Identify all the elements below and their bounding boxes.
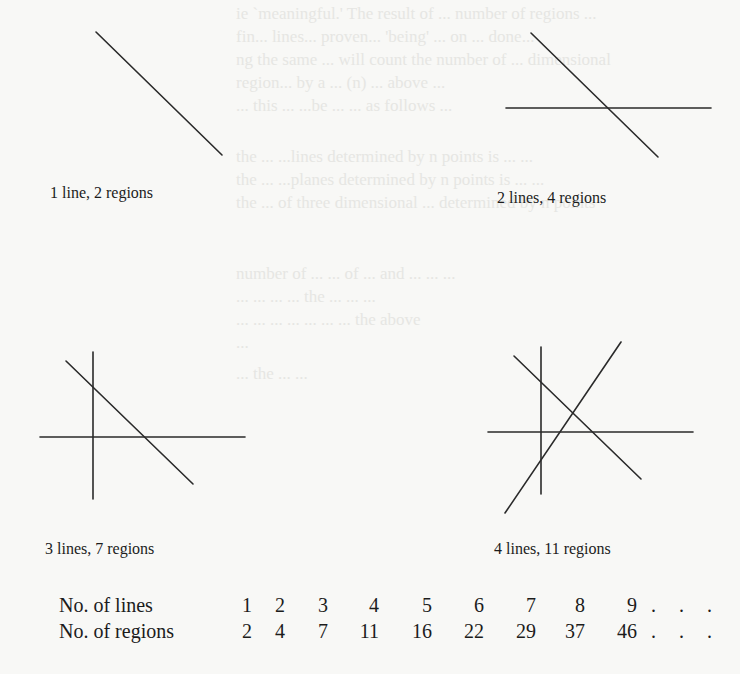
diagram-line xyxy=(505,342,621,513)
diagram-line xyxy=(514,356,641,479)
lines-continuation: . . . xyxy=(651,594,721,617)
figure-2-caption: 2 lines, 4 regions xyxy=(497,189,606,207)
regions-value: 29 xyxy=(486,620,536,643)
lines-value: 6 xyxy=(434,594,484,617)
line-diagrams xyxy=(0,0,740,674)
figure-4-lines xyxy=(488,342,693,513)
regions-value: 7 xyxy=(278,620,328,643)
figure-1-lines xyxy=(96,32,222,155)
regions-value: 22 xyxy=(434,620,484,643)
figure-3-caption: 3 lines, 7 regions xyxy=(45,540,154,558)
diagram-line xyxy=(96,32,222,155)
row-label-regions: No. of regions xyxy=(59,620,174,643)
figure-2-lines xyxy=(506,33,711,157)
diagram-line xyxy=(66,361,193,484)
lines-value: 3 xyxy=(278,594,328,617)
row-label-lines: No. of lines xyxy=(59,594,153,617)
regions-value: 16 xyxy=(382,620,432,643)
lines-value: 9 xyxy=(587,594,637,617)
regions-value: 37 xyxy=(535,620,585,643)
lines-value: 8 xyxy=(535,594,585,617)
figure-3-lines xyxy=(40,352,245,499)
regions-value: 11 xyxy=(329,620,379,643)
figure-1-caption: 1 line, 2 regions xyxy=(50,184,153,202)
lines-value: 5 xyxy=(382,594,432,617)
figure-4-caption: 4 lines, 11 regions xyxy=(494,540,611,558)
lines-value: 4 xyxy=(329,594,379,617)
regions-value: 46 xyxy=(587,620,637,643)
diagram-line xyxy=(531,33,658,157)
lines-value: 7 xyxy=(486,594,536,617)
regions-continuation: . . . xyxy=(651,620,721,643)
